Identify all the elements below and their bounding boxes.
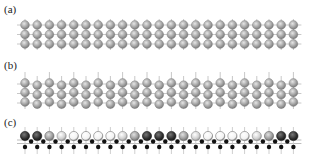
- small-atom-icon: [169, 145, 173, 149]
- atom-icon: [82, 81, 91, 90]
- atom-icon: [143, 88, 152, 97]
- atom-icon: [289, 79, 298, 88]
- small-atom-icon: [267, 145, 271, 149]
- small-atom-icon: [279, 145, 283, 149]
- atom-icon: [167, 98, 176, 107]
- atom-icon: [143, 30, 152, 39]
- atom-icon: [106, 21, 115, 30]
- atom-icon: [57, 90, 66, 99]
- atom-icon: [191, 21, 200, 30]
- atom-icon: [167, 40, 176, 49]
- atom-icon: [191, 98, 200, 107]
- small-atom-icon: [96, 145, 100, 149]
- atom-icon: [130, 100, 139, 109]
- atom-icon: [228, 40, 237, 49]
- atom-gray-icon: [130, 131, 139, 140]
- atom-icon: [106, 81, 115, 90]
- atom-icon: [277, 40, 286, 49]
- small-atom-icon: [255, 145, 259, 149]
- atom-icon: [94, 88, 103, 97]
- atom-icon: [94, 98, 103, 107]
- atom-icon: [130, 21, 139, 30]
- small-atom-icon: [188, 139, 192, 143]
- atom-icon: [69, 30, 78, 39]
- atom-icon: [167, 21, 176, 30]
- small-atom-icon: [66, 139, 70, 143]
- atom-icon: [240, 98, 249, 107]
- atom-icon: [216, 88, 225, 97]
- atom-icon: [240, 88, 249, 97]
- atom-icon: [45, 30, 54, 39]
- atom-icon: [33, 21, 42, 30]
- atom-icon: [33, 90, 42, 99]
- atom-icon: [130, 30, 139, 39]
- atom-light-icon: [57, 131, 66, 140]
- small-atom-icon: [120, 145, 124, 149]
- atom-icon: [289, 21, 298, 30]
- atom-gray-icon: [45, 131, 54, 140]
- small-atom-icon: [114, 139, 118, 143]
- atom-icon: [265, 21, 274, 30]
- atom-white-icon: [81, 131, 90, 140]
- atom-icon: [57, 30, 66, 39]
- atom-icon: [191, 88, 200, 97]
- atom-icon: [204, 40, 213, 49]
- atom-icon: [94, 30, 103, 39]
- small-atom-icon: [224, 139, 228, 143]
- small-atom-icon: [175, 139, 179, 143]
- small-atom-icon: [53, 139, 57, 143]
- atom-icon: [228, 81, 237, 90]
- atom-dark-icon: [167, 131, 176, 140]
- atom-white-icon: [69, 131, 78, 140]
- atom-icon: [155, 40, 164, 49]
- atom-icon: [143, 40, 152, 49]
- atom-icon: [277, 30, 286, 39]
- atom-icon: [33, 40, 42, 49]
- atom-icon: [277, 100, 286, 109]
- atom-icon: [106, 40, 115, 49]
- atom-icon: [143, 21, 152, 30]
- atom-icon: [21, 21, 30, 30]
- small-atom-icon: [273, 139, 277, 143]
- small-atom-icon: [72, 145, 76, 149]
- atom-icon: [21, 40, 30, 49]
- atom-icon: [265, 98, 274, 107]
- small-atom-icon: [84, 145, 88, 149]
- atom-icon: [277, 90, 286, 99]
- atom-white-icon: [106, 131, 115, 140]
- atom-icon: [155, 21, 164, 30]
- small-atom-icon: [133, 145, 137, 149]
- atom-icon: [204, 21, 213, 30]
- small-atom-icon: [78, 139, 82, 143]
- atom-icon: [21, 79, 30, 88]
- atom-icon: [33, 81, 42, 90]
- small-atom-icon: [163, 139, 167, 143]
- small-atom-icon: [236, 139, 240, 143]
- atom-icon: [94, 21, 103, 30]
- atom-icon: [45, 21, 54, 30]
- atom-icon: [155, 81, 164, 90]
- small-atom-icon: [157, 145, 161, 149]
- atom-icon: [118, 40, 127, 49]
- atom-icon: [69, 88, 78, 97]
- small-atom-icon: [108, 145, 112, 149]
- lattice-figure: [0, 0, 319, 160]
- small-atom-icon: [212, 139, 216, 143]
- atom-icon: [155, 100, 164, 109]
- atom-icon: [167, 30, 176, 39]
- small-atom-icon: [291, 145, 295, 149]
- atom-icon: [252, 100, 261, 109]
- atom-icon: [179, 81, 188, 90]
- atom-icon: [252, 30, 261, 39]
- atom-icon: [21, 98, 30, 107]
- atom-icon: [289, 98, 298, 107]
- atom-icon: [179, 40, 188, 49]
- atom-icon: [82, 21, 91, 30]
- atom-icon: [240, 79, 249, 88]
- atom-icon: [94, 79, 103, 88]
- atom-icon: [191, 79, 200, 88]
- atom-icon: [277, 21, 286, 30]
- atom-icon: [228, 90, 237, 99]
- atom-icon: [118, 21, 127, 30]
- small-atom-icon: [285, 139, 289, 143]
